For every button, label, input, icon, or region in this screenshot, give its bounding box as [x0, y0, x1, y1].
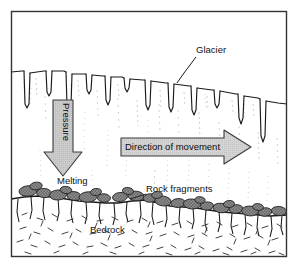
direction-of-movement-label: Direction of movement	[125, 141, 220, 152]
glacier-diagram-figure: Pressure Direction of movement Glacier M…	[0, 0, 299, 270]
bedrock-label: Bedrock	[90, 224, 125, 235]
melting-label: Melting	[57, 175, 88, 186]
glacier-cross-section-svg: Pressure Direction of movement Glacier M…	[0, 0, 299, 270]
pressure-label: Pressure	[61, 103, 72, 141]
rock-fragments-label: Rock fragments	[146, 183, 213, 194]
glacier-label: Glacier	[196, 44, 226, 55]
